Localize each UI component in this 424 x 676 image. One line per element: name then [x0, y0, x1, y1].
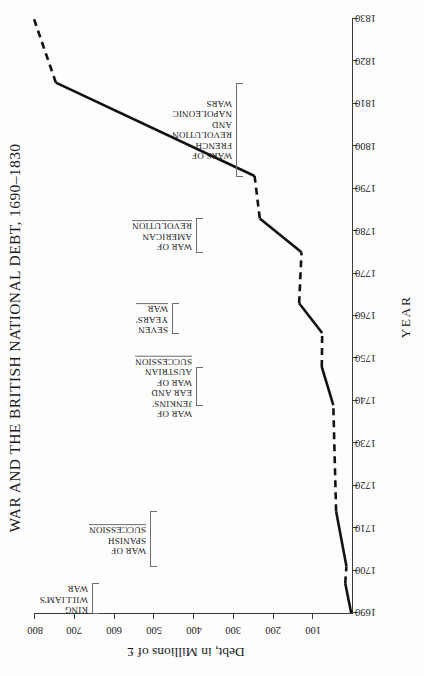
- x-tick: 1690: [352, 612, 358, 613]
- x-tick-label: 1700: [355, 565, 376, 576]
- annotation-line: WARS OF: [172, 151, 232, 161]
- annotation-line: WAR OF: [132, 242, 192, 252]
- annotation-line: NAPOLEONIC: [172, 110, 232, 120]
- annotation-leader-tick: [196, 218, 203, 219]
- chart-stage: WAR AND THE BRITISH NATIONAL DEBT, 1690–…: [0, 0, 424, 676]
- x-tick: 1720: [352, 485, 358, 486]
- annotation-line: WAR: [136, 303, 168, 314]
- annotation-line: SUCCESSION: [135, 355, 192, 366]
- x-tick-label: 1690: [355, 607, 376, 618]
- y-tick: 200: [273, 613, 274, 619]
- annotation-leader-tick: [236, 83, 243, 84]
- x-tick-label: 1780: [355, 225, 376, 236]
- y-tick-label: 100: [305, 624, 321, 635]
- x-tick: 1770: [352, 273, 358, 274]
- x-tick-label: 1740: [355, 395, 376, 406]
- y-tick: 600: [114, 613, 115, 619]
- annotation-line: JENKINS': [135, 398, 192, 408]
- annotation-line: WAR: [40, 584, 88, 594]
- x-tick-label: 1750: [355, 352, 376, 363]
- x-tick: 1810: [352, 103, 358, 104]
- annotation-leader-tick: [150, 511, 157, 512]
- annotation-leader: [150, 512, 151, 567]
- annotation-line: SUCCESSION: [89, 524, 146, 535]
- chart-title: WAR AND THE BRITISH NATIONAL DEBT, 1690–…: [6, 0, 24, 676]
- y-tick: 500: [153, 613, 154, 619]
- series-segment-dashed: [299, 252, 301, 303]
- x-tick-label: 1720: [355, 480, 376, 491]
- annotation-line: SPANISH: [89, 535, 146, 545]
- x-tick-label: 1830: [355, 13, 376, 24]
- series-segment-solid: [299, 303, 322, 333]
- annotation-line: WAR OF: [135, 408, 192, 418]
- y-tick-label: 300: [225, 624, 241, 635]
- series-segment-solid: [345, 583, 351, 613]
- annotation-leader-tick: [196, 405, 203, 406]
- annotation-line: AUSTRIAN: [135, 367, 192, 377]
- x-tick-label: 1800: [355, 140, 376, 151]
- series-segment-dashed: [34, 19, 56, 83]
- x-tick: 1700: [352, 570, 358, 571]
- annotation-line: WARS: [172, 99, 232, 109]
- series-segment-solid: [260, 218, 302, 252]
- annotation-leader: [236, 84, 237, 177]
- annotation-leader-tick: [172, 333, 179, 334]
- annotation-leader-tick: [92, 613, 99, 614]
- y-tick-label: 500: [146, 624, 162, 635]
- annotation-line: WILLIAM'S: [40, 594, 88, 604]
- series-segment-dashed: [333, 405, 336, 511]
- y-tick-label: 700: [66, 624, 82, 635]
- annotation-leader: [196, 219, 197, 253]
- y-axis-label: Debt, in Millions of £: [96, 644, 276, 660]
- annotation-line: FRENCH: [172, 141, 232, 151]
- x-tick: 1800: [352, 145, 358, 146]
- annotation-leader-tick: [92, 583, 99, 584]
- annotation-line: REVOLUTION: [132, 220, 192, 231]
- annotation-line: EAR AND: [135, 388, 192, 398]
- x-tick: 1820: [352, 60, 358, 61]
- annotation-line: WAR OF: [89, 545, 146, 555]
- annotation-leader: [196, 368, 197, 406]
- x-tick-label: 1790: [355, 183, 376, 194]
- x-tick: 1750: [352, 357, 358, 358]
- x-tick-label: 1710: [355, 522, 376, 533]
- chart-page: WAR AND THE BRITISH NATIONAL DEBT, 1690–…: [0, 0, 424, 676]
- x-tick: 1730: [352, 442, 358, 443]
- x-tick: 1830: [352, 18, 358, 19]
- series-segment-dashed: [255, 176, 260, 218]
- x-tick: 1710: [352, 527, 358, 528]
- annotation-leader-tick: [172, 303, 179, 304]
- annotation-line: AMERICAN: [132, 232, 192, 242]
- y-tick: 400: [193, 613, 194, 619]
- annotation-leader: [172, 304, 173, 334]
- x-tick-label: 1810: [355, 98, 376, 109]
- annotation-line: YEARS': [136, 314, 168, 324]
- x-tick: 1740: [352, 400, 358, 401]
- y-tick: 800: [34, 613, 35, 619]
- x-tick: 1780: [352, 230, 358, 231]
- annotation-line: REVOLUTION: [172, 130, 232, 140]
- x-tick: 1760: [352, 315, 358, 316]
- x-axis-label: YEAR: [398, 20, 414, 614]
- x-tick-label: 1770: [355, 268, 376, 279]
- series-segment-solid: [336, 511, 346, 566]
- x-tick-label: 1760: [355, 310, 376, 321]
- annotation-line: AND: [172, 120, 232, 130]
- annotation-line: KING: [40, 604, 88, 614]
- y-tick-label: 400: [186, 624, 202, 635]
- y-tick-label: 800: [27, 624, 43, 635]
- y-tick: 100: [312, 613, 313, 619]
- annotation-leader-tick: [150, 566, 157, 567]
- x-tick: 1790: [352, 188, 358, 189]
- annotation-leader-tick: [196, 252, 203, 253]
- y-tick: 300: [233, 613, 234, 619]
- annotation-leader-tick: [196, 367, 203, 368]
- y-tick-label: 200: [265, 624, 281, 635]
- x-tick-label: 1730: [355, 437, 376, 448]
- series-segment-solid: [322, 367, 334, 405]
- annotation-leader-tick: [236, 176, 243, 177]
- annotation-line: WAR OF: [135, 377, 192, 387]
- annotation-leader: [92, 584, 93, 614]
- series-segment-dashed: [345, 566, 346, 583]
- y-tick-label: 600: [106, 624, 122, 635]
